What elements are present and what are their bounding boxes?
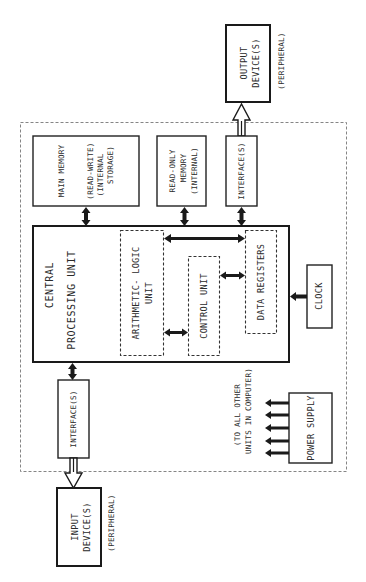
output-interface-node: INTERFACE(S) [226, 136, 257, 206]
rom-cpu-arrow-icon [180, 207, 189, 226]
power-arrow-icon [265, 411, 289, 419]
power-arrow-icon [265, 424, 289, 432]
rom-label-1: READ-ONLY [168, 149, 177, 192]
memory-cpu-arrow-icon [82, 207, 91, 226]
output-device-label-1: OUTPUT [239, 47, 249, 80]
power-arrow-icon [265, 399, 289, 407]
main-memory-sub-3: STORAGE) [106, 146, 115, 184]
output-interface-cpu-arrow-icon [237, 207, 246, 226]
main-memory-node: MAIN MEMORY (READ-WRITE) (INTERNAL STORA… [33, 136, 139, 206]
power-supply-note-1: (TO ALL OTHER [233, 384, 242, 446]
data-registers-label: DATA REGISTERS [256, 244, 266, 321]
rom-label-3: (INTERNAL) [190, 147, 199, 195]
alu-label-2: UNIT [144, 282, 154, 304]
power-supply-label: POWER SUPPLY [306, 395, 316, 461]
cpu-input-interface-arrow-icon [68, 363, 77, 380]
input-device-label-1: INPUT [70, 513, 80, 540]
power-supply-node: POWER SUPPLY (TO ALL OTHER UNITS IN COMP… [233, 368, 332, 463]
output-device-node: OUTPUT DEVICE(S) (PERIPHERAL) [226, 25, 286, 102]
rom-label-2: MEMORY [179, 153, 188, 182]
power-supply-note-2: UNITS IN COMPUTER) [244, 368, 253, 454]
main-memory-sub-2: (INTERNAL [96, 153, 105, 196]
clock-label: CLOCK [314, 282, 324, 310]
computer-block-diagram: OUTPUT DEVICE(S) (PERIPHERAL) MAIN MEMOR… [0, 0, 366, 582]
clock-node: CLOCK [290, 265, 332, 328]
cpu-node: CENTRAL PROCESSING UNIT ARITHMETIC- LOGI… [33, 226, 289, 362]
output-device-note: (PERIPHERAL) [277, 32, 286, 89]
cpu-label-2: PROCESSING UNIT [66, 250, 77, 349]
input-bus-arrow-icon [65, 458, 82, 488]
main-memory-title: MAIN MEMORY [57, 145, 66, 198]
input-interface-label: INTERFACE(S) [69, 390, 78, 447]
rom-node: READ-ONLY MEMORY (INTERNAL) [157, 136, 206, 206]
cpu-label-1: CENTRAL [44, 262, 55, 308]
main-memory-sub-1: (READ-WRITE) [86, 142, 95, 199]
output-device-label-2: DEVICE(S) [251, 38, 261, 87]
input-device-note: (PERIPHERAL) [107, 494, 116, 551]
power-arrow-icon [265, 437, 289, 445]
input-device-node: INPUT DEVICE(S) (PERIPHERAL) [57, 488, 116, 566]
input-device-label-2: DEVICE(S) [82, 502, 92, 551]
control-unit-label: CONTROL UNIT [199, 273, 209, 339]
input-interface-node: INTERFACE(S) [58, 380, 89, 458]
power-arrow-icon [265, 449, 289, 457]
clock-cpu-arrow-icon [290, 292, 307, 301]
alu-label-1: ARITHMETIC- LOGIC [131, 246, 141, 339]
output-bus-arrow-icon [233, 104, 250, 136]
output-interface-label: INTERFACE(S) [237, 142, 246, 199]
